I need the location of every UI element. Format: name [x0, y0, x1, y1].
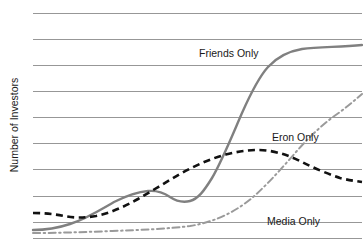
media-only-label: Media Only [267, 215, 321, 227]
friends-only-label: Friends Only [199, 47, 259, 59]
line-chart: Number of Investors Friends Only Eron On… [0, 0, 363, 245]
axis-label-group: Number of Investors [8, 78, 20, 173]
chart-background [0, 0, 363, 245]
eron-only-label: Eron Only [272, 131, 319, 143]
chart-container: Number of Investors Friends Only Eron On… [0, 0, 363, 245]
y-axis-label: Number of Investors [8, 78, 20, 173]
